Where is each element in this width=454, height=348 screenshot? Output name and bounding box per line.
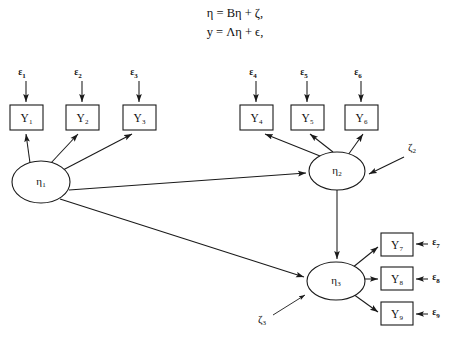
label-zeta2: ζ2 (408, 141, 417, 155)
error-arrows-right (416, 244, 428, 314)
label-e8: ε8 (432, 272, 440, 284)
arrow-eta1-to-eta3 (60, 199, 304, 277)
indicator-Y6: Y6 (345, 105, 378, 130)
error-arrows-top (26, 81, 361, 102)
arrow-eta2-to-Y6 (348, 134, 363, 155)
arrow-eta2-to-Y4 (265, 134, 320, 156)
label-e4: ε4 (249, 67, 257, 79)
indicator-Y5: Y5 (291, 105, 324, 130)
latent-eta3: η3 (307, 262, 365, 300)
arrow-zeta3-to-eta3 (273, 295, 305, 315)
indicator-Y2: Y2 (66, 105, 99, 130)
indicator-Y7: Y7 (381, 233, 413, 256)
label-e3: ε3 (130, 67, 138, 79)
label-e1: ε1 (18, 67, 26, 79)
arrow-eta3-to-Y7 (352, 247, 378, 268)
indicator-Y3: Y3 (123, 105, 156, 130)
label-e2: ε2 (74, 67, 82, 79)
arrow-eta2-to-Y5 (310, 134, 333, 152)
loadings-eta2 (265, 134, 363, 156)
indicator-Y9: Y9 (381, 302, 413, 325)
label-e5: ε5 (300, 67, 308, 79)
label-zeta3: ζ3 (258, 313, 267, 327)
path-diagram: Y1 Y2 Y3 Y4 (0, 0, 454, 348)
arrow-eta3-to-Y9 (353, 294, 378, 312)
indicator-Y1: Y1 (10, 105, 43, 130)
structural-paths (60, 173, 337, 277)
arrow-eta1-to-Y2 (50, 134, 78, 164)
arrow-eta1-to-Y1 (26, 134, 30, 163)
latent-eta2: η2 (309, 152, 365, 190)
arrow-zeta2-to-eta2 (369, 157, 404, 174)
label-e7: ε7 (432, 237, 440, 249)
latent-eta1: η1 (12, 161, 70, 203)
indicator-Y4: Y4 (240, 105, 273, 130)
latent-ellipses: η1 η2 η3 (12, 152, 365, 300)
arrow-eta1-to-eta2 (69, 173, 306, 190)
diagram-page: η = Bη + ζ, y = Λη + ϵ, (0, 0, 454, 348)
label-e6: ε6 (354, 67, 362, 79)
indicator-Y8: Y8 (381, 267, 413, 290)
label-e9: ε9 (432, 307, 440, 319)
